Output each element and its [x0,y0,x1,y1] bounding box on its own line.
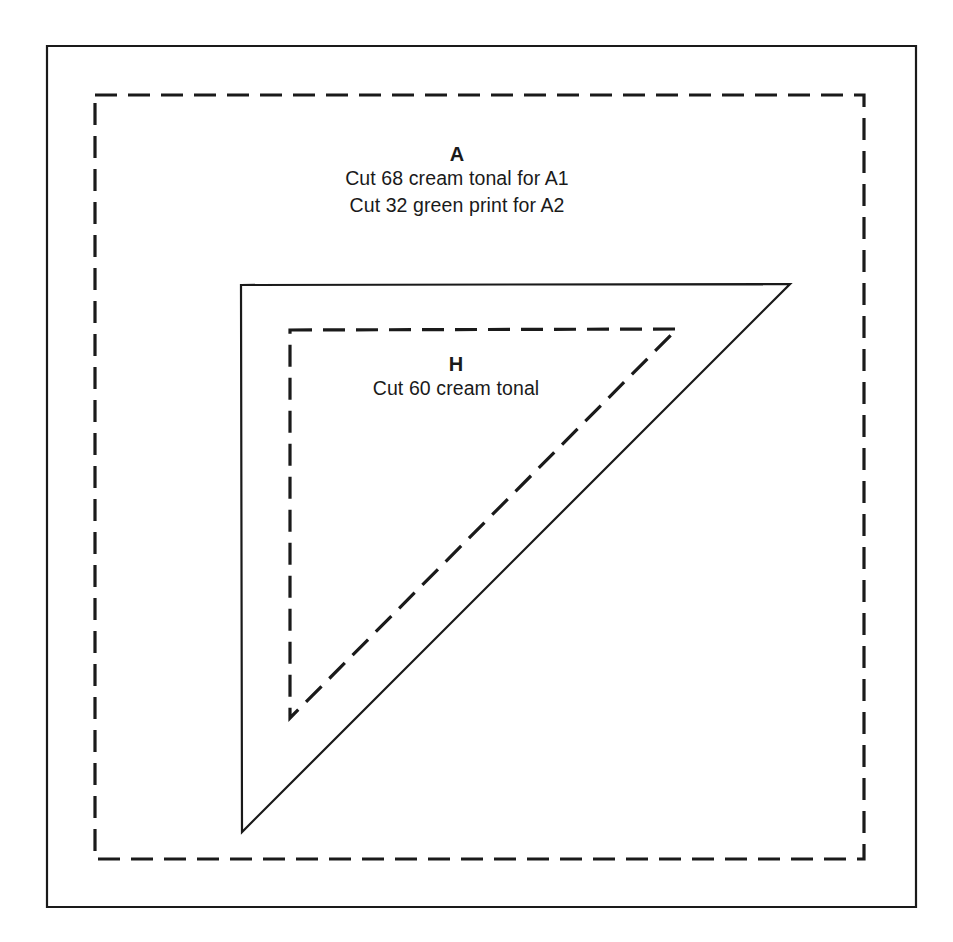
template-h-letter: H [306,353,606,375]
template-h-label: H Cut 60 cream tonal [306,353,606,402]
template-h-cut-instruction-1: Cut 60 cream tonal [306,375,606,402]
pattern-drawing [0,0,953,942]
pattern-sheet: A Cut 68 cream tonal for A1 Cut 32 green… [0,0,953,942]
template-a-label: A Cut 68 cream tonal for A1 Cut 32 green… [257,143,657,219]
template-a-cut-instruction-1: Cut 68 cream tonal for A1 [257,165,657,192]
template-a-letter: A [257,143,657,165]
template-a-cut-instruction-2: Cut 32 green print for A2 [257,192,657,219]
